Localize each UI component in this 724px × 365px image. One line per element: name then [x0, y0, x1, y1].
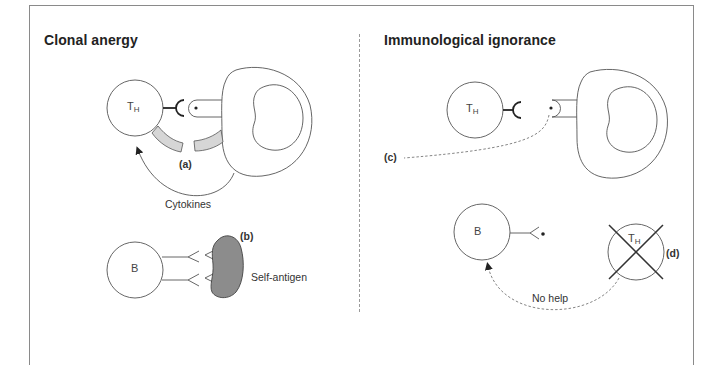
th-label-sub-right: H — [473, 107, 479, 116]
th-cell-label-right: TH — [466, 102, 479, 116]
apc-nucleus-right — [607, 87, 657, 152]
cytokines-arrow — [138, 150, 234, 196]
costim-band-apc — [194, 130, 223, 151]
antigen-dot-icon-right — [541, 232, 545, 236]
tcr-cup-icon-right — [513, 102, 521, 118]
mhc-molecule-right — [552, 100, 577, 117]
costim-band-th — [152, 126, 183, 152]
th-label-sub: H — [134, 105, 140, 114]
peptide-dot-icon-right — [549, 106, 552, 109]
panel-title-clonal-anergy: Clonal anergy — [44, 32, 138, 48]
th-absent-label-main: T — [628, 232, 635, 244]
label-a: (a) — [179, 158, 192, 170]
th-absent-label: TH — [628, 232, 641, 246]
label-b: (b) — [240, 230, 253, 242]
self-antigen-blob — [211, 236, 243, 298]
label-cytokines: Cytokines — [165, 198, 211, 210]
mhc-molecule — [189, 100, 223, 117]
label-c: (c) — [384, 151, 397, 163]
b-cell-label: B — [131, 262, 138, 274]
bcr-fork-right — [530, 227, 539, 239]
th-label-main: T — [127, 100, 134, 112]
label-d: (d) — [666, 247, 679, 259]
th-absent-label-sub: H — [635, 237, 641, 246]
panel-title-immunological-ignorance: Immunological ignorance — [384, 32, 556, 48]
tcr-cup-icon — [176, 100, 184, 116]
b-cell-label-right: B — [474, 225, 481, 237]
bcr-receptors — [162, 251, 213, 286]
label-no-help: No help — [532, 292, 568, 304]
b-cell-circle-right — [454, 204, 510, 260]
ignorance-drawing — [404, 69, 667, 309]
th-cell-label: TH — [127, 100, 140, 114]
th-label-main-right: T — [466, 102, 473, 114]
peptide-dot-icon — [194, 106, 197, 109]
label-self-antigen: Self-antigen — [251, 271, 307, 283]
